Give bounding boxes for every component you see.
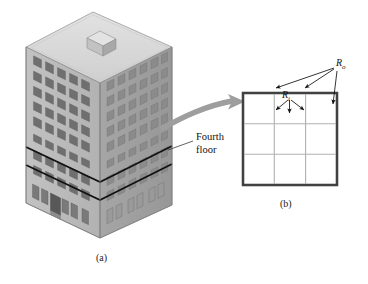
building-illustration <box>26 12 172 238</box>
caption-b: (b) <box>280 198 292 209</box>
transition-arrow-icon <box>163 94 245 128</box>
fourth-floor-label-line2: floor <box>196 144 224 157</box>
figure-canvas <box>0 0 368 284</box>
reaction-inner-subscript: i <box>288 95 290 103</box>
reaction-inner-label: Ri <box>282 89 290 103</box>
floor-plan-grid <box>243 93 337 185</box>
fourth-floor-label-line1: Fourth <box>196 131 224 144</box>
fourth-floor-label: Fourth floor <box>196 131 224 156</box>
reaction-outer-label: Ro <box>336 57 346 71</box>
reaction-outer-subscript: o <box>342 63 346 71</box>
caption-a: (a) <box>96 252 107 263</box>
